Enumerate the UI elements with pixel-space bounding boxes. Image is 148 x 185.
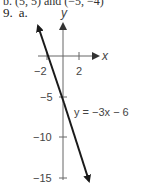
y-tick-label-neg15: −15 (33, 172, 52, 184)
y-axis-label: y (60, 6, 68, 20)
x-tick-label-neg2: −2 (34, 65, 47, 77)
y-tick-label-neg5: −5 (40, 91, 53, 103)
equation-label: y = −3x − 6 (74, 106, 129, 118)
x-tick-label-2: 2 (76, 65, 82, 77)
x-axis-label: x (101, 49, 109, 63)
graph: y x −2 2 −5 −10 −15 y = −3x − 6 (0, 0, 148, 185)
y-tick-label-neg10: −10 (33, 131, 52, 143)
